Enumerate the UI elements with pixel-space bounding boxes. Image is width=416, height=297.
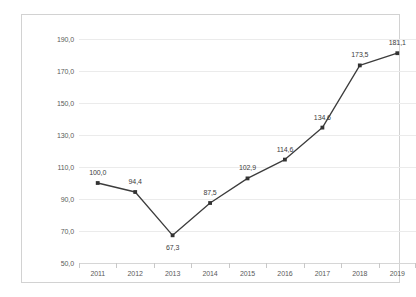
data-point-label: 94,4: [129, 177, 142, 184]
x-axis-tick: [191, 263, 192, 268]
x-axis-labels: 201120122013201420152016201720182019: [79, 270, 416, 282]
x-axis-category-label: 2016: [277, 270, 292, 277]
x-axis-category-label: 2017: [315, 270, 330, 277]
x-axis-tick: [154, 263, 155, 268]
data-point-label: 67,3: [166, 244, 179, 251]
data-point-label: 114,6: [277, 145, 294, 152]
data-point-marker: [358, 64, 362, 68]
data-point-label: 134,6: [314, 113, 331, 120]
y-axis-tick-label: 130,0: [57, 132, 74, 139]
data-point-marker: [246, 177, 250, 181]
x-axis-category-label: 2013: [165, 270, 180, 277]
x-axis-tick: [341, 263, 342, 268]
y-axis-tick-label: 70,0: [61, 228, 74, 235]
x-axis-tick: [79, 263, 80, 268]
x-axis-tick: [116, 263, 117, 268]
data-point-marker: [283, 158, 287, 162]
data-point-label: 181,1: [389, 39, 406, 46]
data-point-marker: [208, 201, 212, 205]
data-point-marker: [133, 190, 137, 194]
x-axis-tick: [379, 263, 380, 268]
x-axis-category-label: 2018: [352, 270, 367, 277]
x-axis-category-label: 2015: [240, 270, 255, 277]
x-axis-ticks: [79, 263, 416, 268]
x-axis-tick: [304, 263, 305, 268]
x-axis-category-label: 2019: [390, 270, 405, 277]
y-axis-tick-label: 50,0: [61, 260, 74, 267]
data-point-label: 102,9: [239, 164, 256, 171]
x-axis-tick: [229, 263, 230, 268]
data-point-label: 173,5: [351, 51, 368, 58]
data-point-marker: [321, 126, 325, 130]
data-point-marker: [96, 181, 100, 185]
chart-frame: 190,0170,0150,0130,0110,090,070,050,0 10…: [21, 14, 400, 283]
y-axis-tick-label: 110,0: [58, 164, 75, 171]
x-axis-category-label: 2012: [128, 270, 143, 277]
x-axis-category-label: 2011: [90, 270, 105, 277]
data-point-label: 100,0: [89, 169, 106, 176]
y-axis-tick-label: 150,0: [57, 100, 74, 107]
series-line: [98, 53, 398, 235]
data-point-label: 87,5: [203, 189, 216, 196]
line-series: [79, 39, 416, 263]
data-point-marker: [395, 51, 399, 55]
y-axis-tick-label: 190,0: [57, 36, 74, 43]
x-axis-category-label: 2014: [202, 270, 217, 277]
y-axis-tick-label: 90,0: [61, 196, 74, 203]
x-axis-tick: [266, 263, 267, 268]
plot-area: 190,0170,0150,0130,0110,090,070,050,0 10…: [79, 39, 416, 263]
y-axis-tick-label: 170,0: [57, 68, 74, 75]
data-point-marker: [171, 233, 175, 237]
